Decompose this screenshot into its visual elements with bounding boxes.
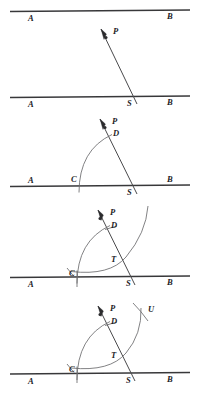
panel-1-label-bottom-b: B	[166, 97, 173, 107]
panel-4-label-c: C	[69, 364, 75, 374]
panel-2-label-a: A	[27, 175, 34, 185]
panel-1-point-p-dot	[105, 36, 108, 39]
panel-4-base-line	[10, 373, 190, 375]
panel-4-arc-s	[77, 322, 110, 381]
panel-4-label-p: P	[110, 303, 116, 313]
panel-3-arc-s	[77, 226, 110, 284]
panel-2-point-p-dot	[104, 126, 107, 129]
panel-2-label-b: B	[166, 174, 173, 184]
panel-1-transversal	[101, 29, 137, 104]
panel-1-label-bottom-a: A	[27, 99, 34, 109]
construction-figure: A B A B P S A B P D C S	[0, 0, 201, 402]
panel-1-label-s: S	[127, 98, 132, 108]
panel-4-label-t: T	[111, 350, 117, 360]
panel-1-label-p: P	[113, 26, 119, 36]
panel-3-base-line	[10, 276, 190, 278]
panel-4-label-s: S	[126, 375, 131, 385]
panel-3-label-p: P	[110, 207, 116, 217]
panel-4: A B P D U C T S	[10, 303, 190, 386]
panel-3-label-c: C	[69, 268, 75, 278]
panel-1-top-line	[10, 10, 190, 12]
panel-1: A B A B P S	[10, 10, 190, 109]
panel-4-point-p-dot	[99, 313, 102, 316]
panel-3-label-t: T	[111, 254, 117, 264]
panel-4-label-a: A	[27, 376, 34, 386]
panel-1-label-top-a: A	[27, 13, 34, 23]
panel-2-label-d: D	[112, 128, 119, 138]
panel-3: A B P D C T S	[10, 206, 190, 289]
panel-2: A B P D C S	[10, 116, 190, 197]
panel-3-label-a: A	[27, 279, 34, 289]
panel-2-arc-s	[79, 135, 112, 193]
panel-3-point-p-dot	[99, 217, 102, 220]
panel-4-label-u: U	[148, 304, 155, 314]
panel-3-label-b: B	[166, 277, 173, 287]
panel-2-label-s: S	[127, 187, 132, 197]
panel-2-base-line	[10, 185, 190, 187]
construction-diagram: A B A B P S A B P D C S	[0, 0, 201, 402]
panel-2-label-p: P	[112, 116, 118, 126]
panel-4-label-d: D	[110, 316, 117, 326]
panel-3-label-d: D	[110, 220, 117, 230]
panel-2-label-c: C	[71, 174, 77, 184]
panel-4-label-b: B	[166, 374, 173, 384]
panel-1-label-top-b: B	[166, 11, 173, 21]
panel-1-bottom-line	[10, 96, 190, 98]
panel-3-label-s: S	[126, 278, 131, 288]
panel-4-arc-c	[71, 308, 141, 369]
